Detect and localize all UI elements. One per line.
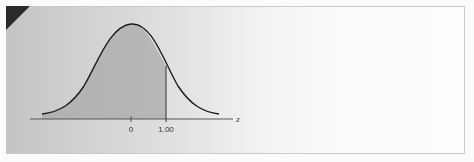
axis-label-z: z xyxy=(235,114,240,124)
shaded-area xyxy=(42,24,166,119)
tick-label-1: 1.00 xyxy=(158,125,174,134)
page-background: 0 1.00 z xyxy=(0,0,474,162)
tick-label-0: 0 xyxy=(129,125,134,134)
normal-curve-chart: 0 1.00 z xyxy=(0,0,474,162)
